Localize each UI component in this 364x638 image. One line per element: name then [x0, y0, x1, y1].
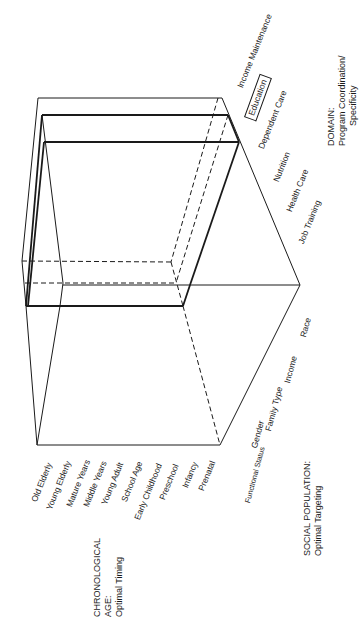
domain-axis-title: DOMAIN: Program Coordination/ Specificit… — [326, 55, 359, 146]
social-population-axis-title: SOCIAL POPULATION: Optimal Targeting — [302, 461, 324, 556]
domain-title-line3: Specificity — [348, 55, 359, 146]
chronological-axis-title: CHRONOLOGICAL AGE: Optimal Timing — [92, 538, 125, 617]
cube-edge — [222, 98, 300, 285]
cube-edge — [26, 306, 37, 445]
chronological-title-line1: CHRONOLOGICAL — [92, 538, 103, 617]
chronological-title-line2: AGE: — [103, 538, 114, 617]
cube-edge — [37, 306, 60, 445]
cube-edge — [60, 283, 63, 306]
population-title-line2: Optimal Targeting — [313, 461, 324, 556]
population-title-line1: SOCIAL POPULATION: — [302, 461, 313, 556]
chronological-title-line3: Optimal Timing — [114, 538, 125, 617]
cube-edge — [42, 115, 63, 283]
domain-title-line1: DOMAIN: — [326, 55, 337, 146]
domain-title-line2: Program Coordination/ — [337, 55, 348, 146]
